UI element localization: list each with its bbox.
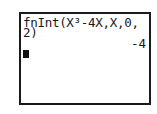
entry-expression-line-1: fnInt(X³-4X,X,0, bbox=[23, 17, 139, 28]
block-cursor-icon[interactable] bbox=[23, 50, 29, 58]
calculator-screen: fnInt(X³-4X,X,0, 2) -4 bbox=[19, 12, 151, 105]
entry-expression-line-2: 2) bbox=[23, 27, 37, 38]
result-value: -4 bbox=[131, 38, 146, 49]
